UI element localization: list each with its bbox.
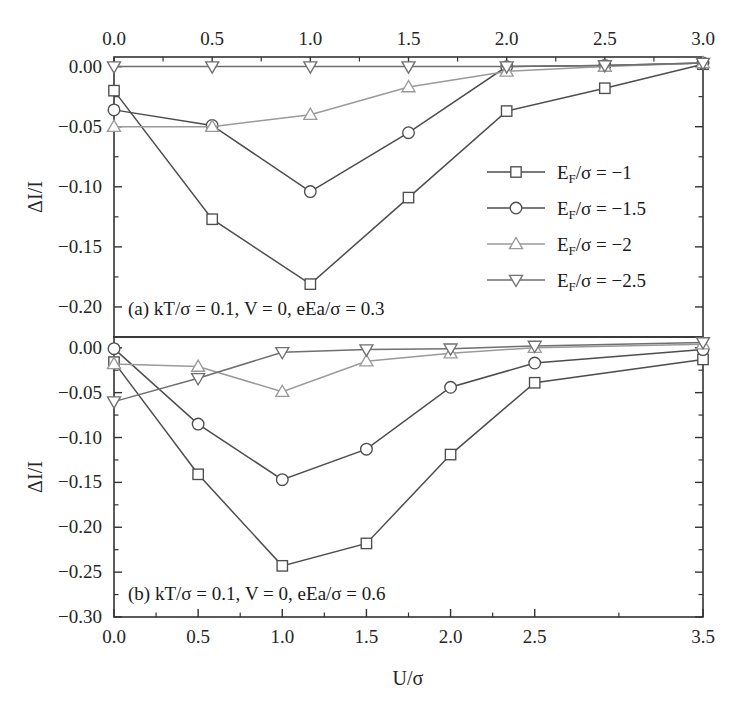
x-tick-label-a-2: 1.0 (298, 28, 322, 49)
data-point-marker-square (511, 167, 521, 177)
data-point-marker-triangle-up (192, 360, 205, 371)
data-point-marker-triangle-down (304, 62, 317, 73)
data-point-marker-triangle-down (206, 62, 219, 73)
data-point-marker-circle (445, 381, 457, 393)
data-point-marker-square (501, 106, 511, 116)
x-tick-label-b-2: 1.0 (270, 626, 294, 647)
x-tick-label-a-0: 0.0 (102, 28, 126, 49)
data-point-marker-triangle-down (108, 62, 121, 73)
y-tick-label-b-3: −0.15 (58, 471, 102, 492)
x-tick-label-a-3: 1.5 (397, 28, 421, 49)
x-tick-label-b-4: 2.0 (439, 626, 463, 647)
legend: EF/σ = −1EF/σ = −1.5EF/σ = −2EF/σ = −2.5 (487, 162, 646, 294)
y-tick-label-a-3: −0.15 (58, 236, 102, 257)
panel-a (108, 57, 710, 337)
data-point-marker-circle (108, 104, 120, 116)
x-tick-label-b-6: 3.5 (691, 626, 715, 647)
data-point-marker-square (109, 85, 119, 95)
data-point-marker-circle (510, 202, 522, 214)
y-tick-label-b-2: −0.10 (58, 427, 102, 448)
x-tick-label-a-5: 2.5 (593, 28, 617, 49)
data-point-marker-circle (108, 343, 120, 355)
y-tick-label-b-1: −0.05 (58, 382, 102, 403)
y-tick-label-a-1: −0.05 (58, 116, 102, 137)
data-point-marker-square (403, 192, 413, 202)
data-point-marker-square (361, 538, 371, 548)
data-point-marker-circle (305, 186, 317, 198)
legend-label-3: EF/σ = −2.5 (557, 270, 646, 294)
data-point-marker-circle (276, 474, 288, 486)
y-tick-label-b-5: −0.25 (58, 561, 102, 582)
data-point-marker-circle (361, 443, 373, 455)
panel-a-annotation: (a) kT/σ = 0.1, V = 0, eEa/σ = 0.3 (128, 298, 384, 320)
panel-b-annotation: (b) kT/σ = 0.1, V = 0, eEa/σ = 0.6 (128, 583, 386, 605)
y-tick-label-a-4: −0.20 (58, 296, 102, 317)
figure-panel-container: 0.00.51.01.52.02.53.00.00−0.05−0.10−0.15… (0, 0, 731, 709)
data-point-marker-triangle-up (108, 120, 121, 131)
y-tick-label-a-0: 0.00 (69, 56, 102, 77)
legend-label-2: EF/σ = −2 (557, 234, 632, 258)
y-tick-label-b-4: −0.20 (58, 516, 102, 537)
data-point-marker-square (277, 561, 287, 571)
y-axis-label-bottom: ΔI/I (24, 461, 46, 493)
data-point-marker-circle (529, 357, 541, 369)
y-tick-label-a-2: −0.10 (58, 176, 102, 197)
data-point-marker-square (305, 279, 315, 289)
x-tick-label-b-0: 0.0 (102, 626, 126, 647)
data-point-marker-square (600, 83, 610, 93)
data-point-marker-square (193, 469, 203, 479)
data-point-marker-triangle-down (360, 345, 373, 356)
data-point-marker-square (207, 214, 217, 224)
data-point-marker-triangle-down (510, 275, 523, 286)
data-point-marker-circle (192, 418, 204, 430)
data-point-marker-square (530, 378, 540, 388)
panel-b (108, 337, 710, 617)
legend-label-0: EF/σ = −1 (557, 162, 632, 186)
x-tick-label-b-3: 1.5 (355, 626, 379, 647)
y-tick-label-b-6: −0.30 (58, 606, 102, 627)
data-point-marker-square (445, 449, 455, 459)
data-point-marker-triangle-down (108, 397, 121, 408)
x-tick-label-b-5: 2.5 (523, 626, 547, 647)
x-tick-label-a-1: 0.5 (200, 28, 224, 49)
chart-svg: 0.00.51.01.52.02.53.00.00−0.05−0.10−0.15… (0, 0, 731, 709)
y-tick-label-b-0: 0.00 (69, 337, 102, 358)
x-tick-label-a-6: 3.0 (691, 28, 715, 49)
x-tick-label-b-1: 0.5 (186, 626, 210, 647)
data-point-marker-triangle-up (510, 238, 523, 249)
data-point-marker-triangle-down (402, 62, 415, 73)
y-axis-label-top: ΔI/I (24, 181, 46, 213)
series-line-b-0 (114, 359, 703, 565)
x-tick-label-a-4: 2.0 (495, 28, 519, 49)
data-point-marker-circle (403, 127, 415, 139)
legend-label-1: EF/σ = −1.5 (557, 198, 646, 222)
x-axis-label: U/σ (393, 667, 424, 689)
